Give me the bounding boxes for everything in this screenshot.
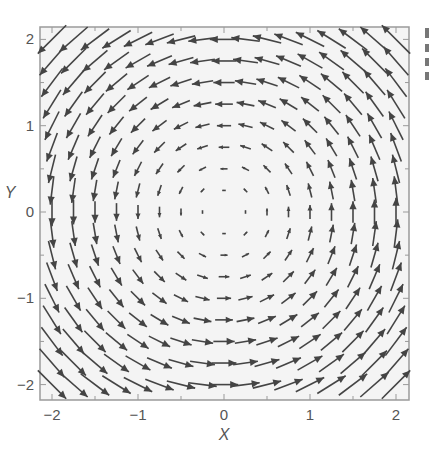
- x-tick-label: 2: [392, 406, 400, 423]
- y-tick-label: 0: [26, 203, 34, 220]
- y-tick-label: −2: [17, 376, 34, 393]
- y-tick-label: 2: [26, 30, 34, 47]
- x-tick-label: 0: [220, 406, 228, 423]
- x-tick-label: 1: [306, 406, 314, 423]
- x-tick-label: −1: [129, 406, 146, 423]
- x-tick-label: −2: [43, 406, 60, 423]
- y-axis-label: Y: [5, 184, 17, 201]
- y-tick-label: 1: [26, 117, 34, 134]
- clipped-glyph: [425, 28, 429, 38]
- y-tick-label: −1: [17, 289, 34, 306]
- clipped-glyph: [425, 72, 429, 80]
- quiver-plot: −2−1012−2−1012 X Y: [0, 0, 429, 457]
- x-axis-label: X: [218, 426, 231, 443]
- clipped-glyph: [425, 44, 429, 52]
- clipped-glyph: [425, 58, 429, 66]
